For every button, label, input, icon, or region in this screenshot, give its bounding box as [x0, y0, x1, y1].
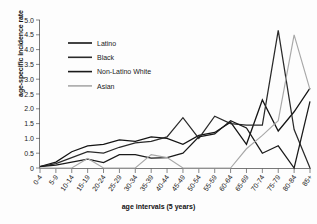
- x-tick-label: 25-29: [107, 173, 123, 192]
- x-tick-label: 60-64: [218, 173, 234, 192]
- x-tick-label: 10-14: [59, 173, 75, 192]
- x-axis-title: age intervals (5 years): [0, 203, 317, 210]
- x-tick-label: 55-59: [202, 173, 218, 192]
- x-tick-label: 20-24: [91, 173, 107, 192]
- x-tick-label: 50-54: [186, 173, 202, 192]
- legend-label-latino: Latino: [97, 40, 116, 47]
- legend-label-black: Black: [97, 54, 115, 61]
- legend-label-non-latino-white: Non-Latino White: [97, 68, 151, 75]
- x-tick-label: 15-19: [75, 173, 91, 192]
- x-tick-label: 30-34: [123, 173, 139, 192]
- y-tick-label: 0: [30, 165, 34, 172]
- y-tick-label: 4.5: [24, 31, 34, 38]
- y-tick-label: 4.0: [24, 46, 34, 53]
- x-tick-label: 40-44: [154, 173, 170, 192]
- y-tick-label: 3.5: [24, 61, 34, 68]
- x-tick-label: 35-39: [138, 173, 154, 192]
- y-tick-label: 2.5: [24, 91, 34, 98]
- line-chart-plot: 00.51.01.52.02.53.03.54.04.55.0 0-45-910…: [0, 0, 317, 224]
- y-tick-label: 2.0: [24, 105, 34, 112]
- data-series-group: [40, 30, 310, 168]
- y-axis-ticks: 00.51.01.52.02.53.03.54.04.55.0: [24, 17, 40, 172]
- y-tick-label: 3.0: [24, 76, 34, 83]
- x-tick-label: 80-84: [281, 173, 297, 192]
- series-line-non-latino-white: [40, 101, 310, 168]
- y-axis-title: age-specific incidence rate: [17, 0, 24, 119]
- y-tick-label: 0.5: [24, 150, 34, 157]
- y-tick-label: 1.0: [24, 135, 34, 142]
- chart-legend: LatinoBlackNon-Latino WhiteAsian: [68, 40, 151, 90]
- x-tick-label: 5-9: [48, 173, 60, 185]
- y-tick-label: 5.0: [24, 17, 34, 24]
- chart-container: age-specific incidence rate age interval…: [0, 0, 317, 224]
- series-line-black: [40, 30, 310, 168]
- x-axis-ticks: 0-45-910-1415-1920-2425-2930-3435-3940-4…: [32, 169, 314, 193]
- legend-label-asian: Asian: [97, 83, 115, 90]
- x-tick-label: 70-74: [250, 173, 266, 192]
- x-tick-label: 0-4: [32, 173, 44, 185]
- x-tick-label: 65-69: [234, 173, 250, 192]
- y-tick-label: 1.5: [24, 120, 34, 127]
- x-tick-label: 45-49: [170, 173, 186, 192]
- x-tick-label: 75-79: [266, 173, 282, 192]
- x-tick-label: 85+: [301, 174, 314, 188]
